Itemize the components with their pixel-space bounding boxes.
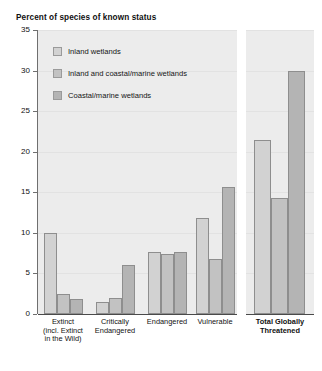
bar	[148, 252, 161, 314]
y-tick-mark	[33, 152, 37, 153]
chart-container: Percent of species of known status 35302…	[0, 0, 322, 371]
legend-item-label: Coastal/marine wetlands	[68, 91, 151, 100]
y-tick-label: 35	[4, 26, 30, 34]
legend-swatch-icon	[53, 69, 62, 78]
y-tick-label: 20	[4, 148, 30, 156]
x-axis-label: Total GloballyThreatened	[242, 318, 318, 335]
y-tick-mark	[33, 273, 37, 274]
y-tick-mark	[33, 30, 37, 31]
bar	[222, 187, 235, 314]
x-axis-label-line: Endangered	[138, 318, 196, 327]
gridline	[38, 111, 237, 112]
x-axis-label-line: Endangered	[86, 327, 144, 336]
bar	[174, 252, 187, 314]
bar	[161, 254, 174, 314]
y-tick-label: 25	[4, 107, 30, 115]
legend-item: Inland and coastal/marine wetlands	[53, 66, 187, 81]
y-tick-mark	[33, 314, 37, 315]
axis-baseline-total	[246, 314, 314, 315]
gridline	[38, 192, 237, 193]
bar	[70, 299, 83, 314]
y-tick-label: 0	[4, 310, 30, 318]
y-tick-label: 30	[4, 67, 30, 75]
x-axis-label-line: Threatened	[242, 327, 318, 336]
bar	[57, 294, 70, 314]
y-tick-mark	[33, 192, 37, 193]
x-axis-label: Vulnerable	[189, 318, 241, 327]
axis-baseline-main	[38, 314, 237, 315]
legend-item-label: Inland wetlands	[68, 47, 121, 56]
bar	[254, 140, 271, 314]
bar	[209, 259, 222, 314]
bar	[44, 233, 57, 314]
bar	[271, 198, 288, 314]
gridline	[38, 152, 237, 153]
x-axis-label: Extinct(incl. Extinctin the Wild)	[32, 318, 94, 344]
y-tick-mark	[33, 111, 37, 112]
x-axis-label: CriticallyEndangered	[86, 318, 144, 335]
x-axis-label-line: in the Wild)	[32, 335, 94, 344]
bar	[122, 265, 135, 314]
bar	[96, 302, 109, 314]
legend-swatch-icon	[53, 47, 62, 56]
legend-item-label: Inland and coastal/marine wetlands	[68, 69, 187, 78]
bar	[109, 298, 122, 314]
bar	[196, 218, 209, 314]
gridline	[246, 30, 314, 31]
y-tick-mark	[33, 233, 37, 234]
y-tick-label: 15	[4, 188, 30, 196]
legend-item: Inland wetlands	[53, 44, 187, 59]
chart-title: Percent of species of known status	[16, 13, 156, 22]
y-tick-label: 5	[4, 269, 30, 277]
y-axis-line	[37, 30, 38, 314]
bar	[288, 71, 305, 314]
chart-legend: Inland wetlands Inland and coastal/marin…	[53, 44, 187, 110]
x-axis-label-line: Vulnerable	[189, 318, 241, 327]
legend-item: Coastal/marine wetlands	[53, 88, 187, 103]
y-tick-label: 10	[4, 229, 30, 237]
legend-swatch-icon	[53, 91, 62, 100]
x-axis-label: Endangered	[138, 318, 196, 327]
y-tick-mark	[33, 71, 37, 72]
gridline	[38, 30, 237, 31]
